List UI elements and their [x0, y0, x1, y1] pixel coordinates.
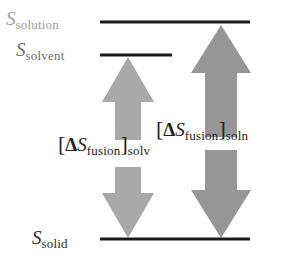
quantity-label-dsfusion-solv: [ΔSfusion]solv [58, 133, 150, 157]
fusion-subscript-solv: fusion [87, 143, 121, 158]
level-symbol-solution: S [6, 8, 16, 29]
level-subscript-solvent: solvent [26, 48, 65, 63]
level-subscript-solid: solid [42, 236, 68, 251]
level-label-solution: Ssolution [6, 9, 59, 31]
level-subscript-solution: solution [16, 17, 60, 32]
entropy-symbol-solv: S [77, 134, 87, 155]
close-bracket-solv: ] [120, 131, 127, 156]
outer-subscript-solv: solv [128, 143, 150, 158]
delta-symbol-soln: Δ [163, 119, 175, 140]
arrow-up-solv [102, 57, 154, 140]
arrow-down-solv [102, 167, 154, 238]
level-symbol-solvent: S [16, 39, 26, 60]
close-bracket-soln: ] [218, 116, 225, 141]
level-label-solid: Ssolid [32, 228, 68, 250]
fusion-subscript-soln: fusion [185, 128, 219, 143]
level-symbol-solid: S [32, 227, 42, 248]
level-label-solvent: Ssolvent [16, 40, 64, 62]
outer-subscript-soln: soln [226, 128, 248, 143]
entropy-symbol-soln: S [175, 119, 185, 140]
delta-symbol-solv: Δ [65, 134, 77, 155]
quantity-label-dsfusion-soln: [ΔSfusion]soln [156, 118, 248, 142]
arrow-down-soln [191, 150, 251, 238]
entropy-level-diagram: Ssolution Ssolvent Ssolid [ΔSfusion]solv… [0, 0, 296, 273]
